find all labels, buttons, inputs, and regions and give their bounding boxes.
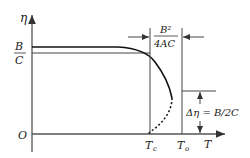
- y-tick-numerator: B: [14, 40, 23, 53]
- width-annotation-denominator: 4AC: [153, 38, 176, 49]
- y-axis-label: η: [20, 11, 28, 25]
- jump-annotation: Δη = B/2C: [185, 107, 239, 118]
- x-axis-label: T: [204, 138, 213, 151]
- dashed-lower-branch: [148, 98, 172, 134]
- solid-upper-branch: [32, 47, 172, 98]
- to-subscript: o: [185, 145, 189, 153]
- origin-label: O: [18, 129, 27, 142]
- width-annotation-numerator: B²: [159, 24, 171, 35]
- phase-diagram: η O T B C B² 4AC Δη = B/2C T c T o: [0, 0, 250, 158]
- y-tick-denominator: C: [15, 54, 24, 67]
- tc-subscript: c: [153, 145, 157, 153]
